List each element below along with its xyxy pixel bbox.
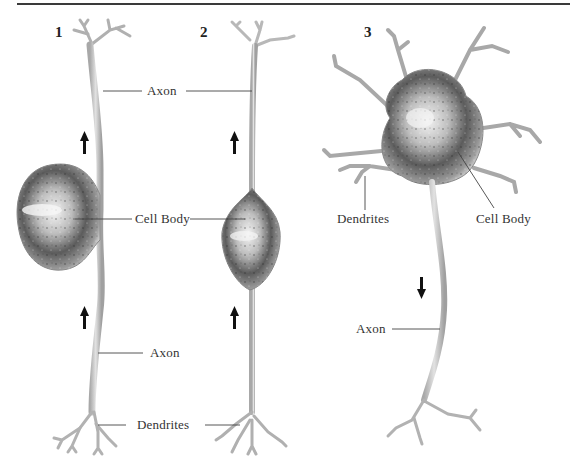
label-axon-3: Axon [356,322,386,335]
neuron-3-axon [424,182,444,400]
arrow-up-icon [230,131,239,154]
neuron-1-bottom-dendrites [54,412,116,454]
label-cell-body-3: Cell Body [476,212,531,225]
arrow-down-icon [417,277,426,299]
label-cell-body-1-2: Cell Body [135,212,190,225]
label-dendrites-3: Dendrites [337,212,389,225]
neuron-3 [324,28,540,444]
panel-number-1: 1 [55,25,63,40]
arrow-up-icon [80,306,89,329]
panel-number-2: 2 [200,25,208,40]
panel-number-3: 3 [364,25,372,40]
neuron-illustration [0,0,570,476]
arrow-up-icon [80,131,89,154]
label-axon-top: Axon [147,84,177,97]
label-axon-bottom: Axon [150,346,180,359]
neuron-2-bottom-dendrites [216,412,286,454]
label-dendrites-bottom: Dendrites [137,418,189,431]
neuron-1 [17,20,130,454]
neuron-1-top-dendrites [74,20,130,44]
neuron-3-axon-terminals [388,400,480,444]
neuron-2-top-dendrites [232,22,294,46]
arrow-up-icon [230,306,239,329]
neuron-2 [216,22,294,454]
